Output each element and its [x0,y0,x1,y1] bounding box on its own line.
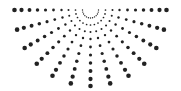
dot [89,46,92,49]
dot [115,35,118,38]
dot [22,26,26,30]
dot [90,17,91,18]
dot [67,9,69,11]
dot [126,9,129,12]
dot [71,75,75,79]
dot [38,22,42,26]
dot [162,27,167,32]
dot [45,20,48,23]
dot [126,74,131,79]
dot [83,13,84,14]
dot [12,8,17,13]
dot [164,8,169,13]
dot [89,38,91,40]
dot [60,9,62,11]
dot [99,44,102,47]
dot [114,23,116,25]
dot [106,75,110,79]
dot [50,74,55,79]
dot [82,11,83,12]
dot [142,61,147,66]
dot [134,8,137,11]
dot [115,54,119,58]
dot [142,8,146,12]
dot [82,22,84,24]
dot [126,46,130,50]
dot [132,20,135,23]
dot [88,84,93,89]
dot [104,34,106,36]
dot [86,16,87,17]
dot [100,28,102,30]
dot [45,51,49,55]
halftone-dots [12,8,169,89]
dot [57,40,60,43]
dot [100,20,102,22]
radial-dot-pattern [0,0,181,91]
dot [73,67,77,71]
dot [135,35,139,39]
dot [137,57,141,61]
dot [111,9,113,11]
dot [51,46,55,50]
dot [111,47,114,50]
dot [109,20,111,22]
dot [74,25,76,27]
dot [15,27,20,32]
dot [70,20,72,22]
dot [119,61,123,65]
dot [75,9,77,11]
dot [29,42,33,46]
dot [89,69,93,73]
dot [125,18,128,21]
dot [123,68,127,72]
dot [141,39,145,43]
dot [98,9,99,10]
dot [148,42,152,46]
dot [94,24,96,26]
dot [40,57,44,61]
dot [105,9,107,11]
dot [101,52,104,55]
dot [82,37,84,39]
dot [157,8,161,12]
dot [97,13,98,14]
dot [44,8,47,11]
dot [118,9,120,11]
dot [92,17,93,18]
dot [154,46,159,51]
dot [75,34,77,36]
dot [111,15,113,17]
dot [64,23,66,25]
dot [86,24,88,26]
dot [75,13,77,15]
dot [84,15,85,16]
dot [80,44,83,47]
dot [103,17,105,19]
dot [90,24,92,26]
dot [104,13,106,15]
dot [58,61,62,65]
dot [66,47,69,50]
dot [19,8,23,12]
dot [30,24,34,28]
dot [97,22,99,24]
dot [117,16,119,18]
dot [82,9,83,10]
dot [61,16,63,18]
dot [79,20,81,22]
dot [108,81,113,86]
dot [71,41,74,44]
dot [57,27,60,30]
dot [52,9,55,12]
dot [97,37,99,39]
dot [121,40,124,43]
dot [77,52,80,55]
dot [28,8,32,12]
dot [34,61,39,66]
dot [69,81,74,86]
dot [155,26,159,30]
dot [84,30,86,32]
dot [89,31,91,33]
dot [94,16,95,17]
